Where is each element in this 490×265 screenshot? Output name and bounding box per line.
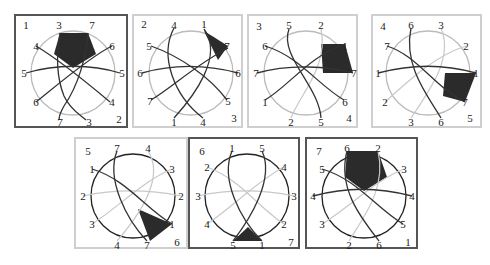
braid-diagram: [373, 16, 483, 126]
endpoint-label: 2: [80, 191, 86, 202]
endpoint-label: 7: [144, 240, 150, 251]
endpoint-label: 6: [109, 41, 115, 52]
endpoint-label: 5: [85, 146, 91, 157]
braid-diagram: [190, 139, 300, 249]
endpoint-label: 7: [57, 117, 63, 128]
endpoint-label: 3: [438, 20, 444, 31]
diagram-panel-7: 762534435261: [305, 137, 418, 249]
endpoint-label: 4: [204, 219, 210, 230]
endpoint-label: 4: [33, 41, 39, 52]
endpoint-label: 3: [291, 191, 297, 202]
endpoint-label: 5: [286, 20, 292, 31]
endpoint-label: 7: [288, 237, 294, 248]
endpoint-label: 7: [253, 68, 259, 79]
endpoint-label: 3: [56, 20, 62, 31]
endpoint-label: 5: [319, 164, 325, 175]
endpoint-label: 6: [199, 146, 205, 157]
dark-strand: [287, 29, 321, 118]
endpoint-label: 6: [342, 97, 348, 108]
endpoint-label: 4: [281, 162, 287, 173]
dark-strand: [174, 29, 211, 118]
endpoint-label: 4: [310, 191, 316, 202]
endpoint-label: 7: [147, 96, 153, 107]
endpoint-label: 5: [400, 219, 406, 230]
braid-diagram: [134, 16, 244, 126]
endpoint-label: 5: [318, 117, 324, 128]
endpoint-label: 4: [171, 20, 177, 31]
endpoint-label: 6: [344, 143, 350, 154]
dark-strand: [378, 66, 476, 73]
endpoint-label: 4: [346, 113, 352, 124]
endpoint-label: 5: [259, 143, 265, 154]
endpoint-label: 2: [288, 117, 294, 128]
endpoint-label: 5: [230, 240, 236, 251]
endpoint-label: 7: [224, 41, 230, 52]
endpoint-label: 1: [405, 237, 411, 248]
endpoint-label: 3: [231, 113, 237, 124]
endpoint-label: 7: [89, 20, 95, 31]
endpoint-label: 3: [86, 117, 92, 128]
shaded-region: [233, 227, 262, 241]
endpoint-label: 1: [201, 19, 207, 30]
endpoint-label: 1: [229, 143, 235, 154]
dark-strand: [228, 151, 262, 241]
endpoint-label: 6: [174, 237, 180, 248]
endpoint-label: 2: [116, 114, 122, 125]
endpoint-label: 3: [401, 164, 407, 175]
endpoint-label: 2: [382, 97, 388, 108]
braid-diagram: [16, 16, 126, 126]
endpoint-label: 1: [259, 240, 265, 251]
endpoint-label: 1: [262, 97, 268, 108]
diagram-panel-5: 574132231476: [74, 137, 188, 249]
endpoint-label: 5: [21, 68, 27, 79]
endpoint-label: 6: [137, 68, 143, 79]
endpoint-label: 1: [375, 68, 381, 79]
endpoint-label: 7: [316, 146, 322, 157]
endpoint-label: 5: [225, 96, 231, 107]
endpoint-label: 4: [145, 143, 151, 154]
endpoint-label: 6: [33, 97, 39, 108]
endpoint-label: 5: [119, 68, 125, 79]
endpoint-label: 3: [89, 219, 95, 230]
endpoint-label: 1: [23, 20, 29, 31]
endpoint-label: 4: [380, 21, 386, 32]
endpoint-label: 5: [146, 41, 152, 52]
endpoint-label: 7: [351, 68, 357, 79]
diagram-panel-4: 463721127365: [371, 14, 482, 128]
endpoint-label: 3: [169, 164, 175, 175]
endpoint-label: 4: [109, 97, 115, 108]
endpoint-label: 6: [235, 68, 241, 79]
shaded-region: [443, 73, 476, 102]
shaded-region: [321, 44, 353, 73]
endpoint-label: 1: [89, 164, 95, 175]
braid-diagram: [307, 139, 417, 249]
endpoint-label: 3: [408, 117, 414, 128]
boundary-circle: [205, 154, 289, 238]
endpoint-label: 1: [342, 41, 348, 52]
braid-diagram: [76, 139, 186, 249]
endpoint-label: 6: [408, 20, 414, 31]
dark-strand: [233, 151, 266, 241]
endpoint-label: 2: [178, 191, 184, 202]
diagram-panel-6: 615243342517: [188, 137, 300, 249]
endpoint-label: 2: [204, 162, 210, 173]
endpoint-label: 6: [262, 41, 268, 52]
diagram-panel-3: 352617716254: [247, 14, 358, 128]
endpoint-label: 1: [171, 117, 177, 128]
endpoint-label: 2: [281, 219, 287, 230]
endpoint-label: 4: [200, 117, 206, 128]
endpoint-label: 6: [376, 240, 382, 251]
endpoint-label: 2: [318, 20, 324, 31]
endpoint-label: 7: [462, 97, 468, 108]
endpoint-label: 3: [195, 191, 201, 202]
diagram-panel-2: 241576675143: [132, 14, 243, 128]
diagram-panel-1: 137465564732: [14, 14, 128, 128]
endpoint-label: 7: [114, 143, 120, 154]
endpoint-label: 2: [463, 41, 469, 52]
endpoint-label: 1: [169, 219, 175, 230]
endpoint-label: 6: [438, 117, 444, 128]
dark-strand: [409, 28, 441, 118]
endpoint-label: 3: [319, 219, 325, 230]
endpoint-label: 2: [375, 143, 381, 154]
endpoint-label: 2: [141, 19, 147, 30]
